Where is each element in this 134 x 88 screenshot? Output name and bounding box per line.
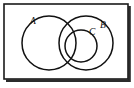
- set-label-b: B: [100, 20, 106, 30]
- venn-diagram-canvas: A B C: [0, 0, 134, 88]
- set-label-c: C: [89, 27, 96, 37]
- set-label-a: A: [29, 16, 36, 26]
- venn-diagram-figure: A B C: [0, 0, 134, 88]
